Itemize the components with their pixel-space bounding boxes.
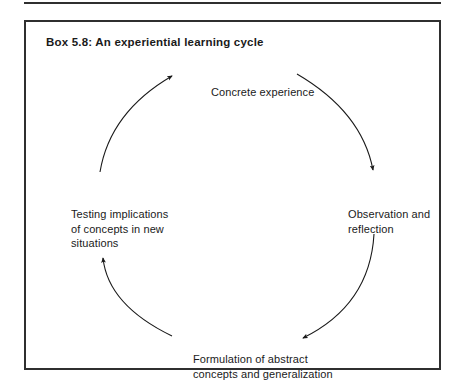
stage-concrete-experience: Concrete experience: [211, 85, 314, 100]
stage-label-line: reflection: [348, 222, 430, 237]
stage-label-line: Observation and: [348, 207, 430, 222]
stage-testing-implications: Testing implications of concepts in new …: [71, 207, 168, 251]
stage-observation-and-reflection: Observation and reflection: [348, 207, 430, 236]
arrow-left-to-top: [100, 76, 172, 172]
cycle-arrows-group: [26, 22, 443, 372]
arrow-bottom-to-left: [103, 258, 172, 336]
box-title: Box 5.8: An experiential learning cycle: [46, 36, 264, 48]
stage-label-line: of concepts in new: [71, 222, 168, 237]
previous-box-bottom-rule: [24, 2, 441, 4]
stage-label-line: situations: [71, 236, 168, 251]
arrow-right-to-bottom: [303, 234, 374, 338]
stage-label-line: concepts and generalization: [193, 367, 333, 382]
stage-label-line: Concrete experience: [211, 85, 314, 100]
box-5-8-container: Box 5.8: An experiential learning cycle …: [24, 20, 441, 370]
stage-formulation-of-abstract-concepts: Formulation of abstract concepts and gen…: [193, 352, 333, 381]
stage-label-line: Testing implications: [71, 207, 168, 222]
stage-label-line: Formulation of abstract: [193, 352, 333, 367]
